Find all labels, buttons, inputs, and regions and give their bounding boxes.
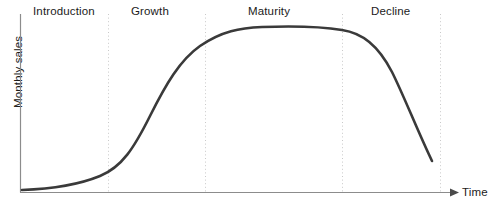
chart-canvas [0,0,491,206]
product-life-cycle-chart: Monthly sales Introduction Growth Maturi… [0,0,491,206]
sales-curve-line [22,26,432,190]
x-axis-arrow-icon [450,189,459,197]
